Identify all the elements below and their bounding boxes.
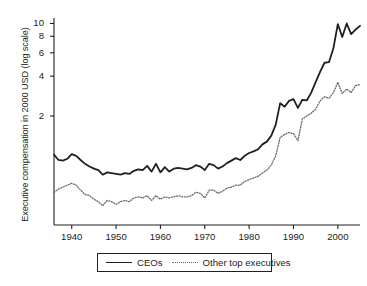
legend-label-other-top-executives: Other top executives xyxy=(203,257,291,268)
legend-label-ceos: CEOs xyxy=(137,257,163,268)
y-tick-marks xyxy=(50,23,54,115)
x-tick-label: 1980 xyxy=(229,231,269,242)
legend-item-ceos: CEOs xyxy=(106,257,163,268)
legend-item-other-top-executives: Other top executives xyxy=(172,257,291,268)
y-tick-label: 6 xyxy=(22,47,44,58)
x-tick-marks xyxy=(72,225,338,229)
series-line-ceos xyxy=(54,23,360,174)
y-tick-label: 8 xyxy=(22,30,44,41)
y-tick-label: 10 xyxy=(22,17,44,28)
chart-figure: Executive compensation in 2000 USD (log … xyxy=(0,0,367,286)
x-tick-label: 2000 xyxy=(318,231,358,242)
y-tick-label: 2 xyxy=(22,110,44,121)
data-series-layer xyxy=(54,23,360,205)
chart-legend: CEOs Other top executives xyxy=(97,253,272,272)
x-tick-label: 1990 xyxy=(273,231,313,242)
legend-line-dotted-icon xyxy=(172,259,198,267)
x-tick-label: 1950 xyxy=(96,231,136,242)
plot-area xyxy=(0,0,367,286)
x-tick-label: 1970 xyxy=(185,231,225,242)
x-tick-label: 1960 xyxy=(140,231,180,242)
y-tick-label: 4 xyxy=(22,70,44,81)
legend-line-solid-icon xyxy=(106,259,132,267)
x-tick-label: 1940 xyxy=(52,231,92,242)
series-line-other-top-executives xyxy=(54,82,360,205)
